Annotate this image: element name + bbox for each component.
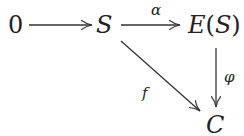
- commutative-diagram: 0 S E(S) C α φ f: [0, 0, 244, 136]
- node-zero: 0: [8, 13, 23, 37]
- arrow-f: [121, 41, 200, 111]
- node-c: C: [206, 113, 224, 136]
- node-s: S: [96, 13, 112, 37]
- label-f: f: [142, 86, 148, 101]
- node-es: E(S): [188, 13, 241, 37]
- label-alpha: α: [151, 3, 161, 18]
- label-phi: φ: [224, 70, 235, 85]
